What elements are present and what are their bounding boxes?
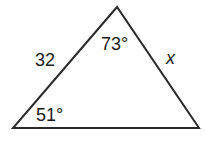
side-right-label: x [165,48,176,68]
angle-bottom-left-label: 51° [36,105,63,125]
triangle-diagram: 32 73° x 51° [0,0,205,143]
angle-top-label: 73° [101,34,128,54]
side-left-label: 32 [35,50,55,70]
